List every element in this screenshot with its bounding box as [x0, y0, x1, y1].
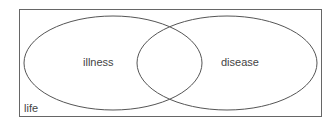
venn-diagram: [0, 0, 336, 123]
universe-box: [20, 10, 322, 117]
disease-label: disease: [221, 57, 259, 68]
life-label: life: [24, 103, 38, 114]
illness-label: illness: [83, 57, 114, 68]
